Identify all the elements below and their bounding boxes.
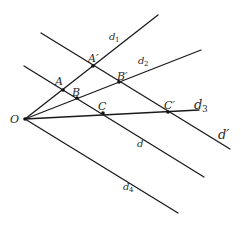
label-A: A [54,75,63,88]
point-O [23,117,27,121]
line-d4 [25,119,178,213]
label-d1: d 1 [109,31,119,44]
svg-text:4: 4 [129,186,134,194]
point-A [61,88,65,92]
label-B: B [71,86,80,99]
label-d-prime: d′ [218,127,229,142]
label-d3: d 3 [194,97,208,114]
label-O: O [10,113,19,126]
label-A-prime: A′ [87,52,99,65]
label-d2: d 2 [138,55,148,68]
svg-text:2: 2 [144,60,148,68]
label-d4: d 4 [123,181,134,194]
svg-text:d: d [137,138,143,149]
line-d [24,66,204,177]
label-B-prime: B′ [116,70,128,83]
line-d-prime [41,33,230,149]
label-C-prime: C′ [164,99,175,112]
svg-text:d′: d′ [218,127,229,142]
geometry-diagram: O A B C A′ B′ C′ d 1 d 2 d 3 d d 4 d′ [0,0,241,227]
svg-text:1: 1 [115,36,119,44]
label-C: C [98,100,107,113]
line-d1 [25,15,158,119]
svg-text:3: 3 [202,104,208,114]
label-d: d [137,138,143,149]
